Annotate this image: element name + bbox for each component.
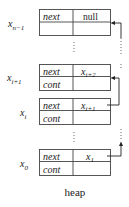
heap-linked-list-diagram: next null xn−1 next cont xi+2 xi+1 next …	[0, 0, 129, 207]
next-field-value: null	[83, 12, 98, 22]
next-field-label: next	[43, 66, 60, 77]
cell-x-0: next cont x1 x0	[19, 150, 111, 176]
cont-field-label: cont	[43, 164, 60, 175]
cell-label: xn−1	[7, 18, 24, 32]
arrowhead-icon	[111, 76, 116, 80]
cont-field-label: cont	[43, 79, 60, 90]
cell-label: x0	[19, 158, 28, 172]
cell-x-i: next cont xi+1 xi	[19, 99, 111, 125]
next-field-label: next	[43, 11, 60, 22]
cont-field-label: cont	[43, 113, 60, 124]
cell-x-i-plus-1: next cont xi+2 xi+1	[6, 65, 111, 91]
next-field-label: next	[43, 151, 60, 162]
cell-label: xi	[19, 107, 26, 121]
next-field-label: next	[43, 100, 60, 111]
cell-label: xi+1	[6, 72, 22, 86]
arrowhead-icon	[119, 142, 123, 147]
arrow-into-x-n-minus-1	[113, 23, 121, 38]
diagram-caption: heap	[65, 186, 86, 198]
arrowhead-icon	[111, 21, 116, 25]
cell-x-n-minus-1: next null xn−1	[7, 10, 111, 36]
